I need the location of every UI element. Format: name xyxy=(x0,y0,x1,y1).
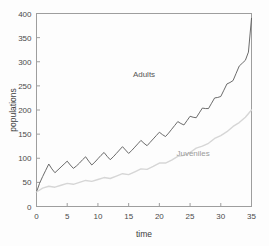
population-line-chart: 050100150200250300350400 05101520253035 … xyxy=(0,0,269,246)
y-tick-label: 100 xyxy=(18,154,32,163)
x-axis-tick-marks xyxy=(37,203,252,207)
y-tick-label: 50 xyxy=(23,178,32,187)
annotation-adults: Adults xyxy=(133,70,155,79)
x-tick-label: 10 xyxy=(93,212,102,221)
plot-frame xyxy=(37,14,252,207)
x-tick-label: 15 xyxy=(124,212,133,221)
y-axis-title: populations xyxy=(8,88,18,131)
figure-canvas: 050100150200250300350400 05101520253035 … xyxy=(0,0,269,246)
x-tick-label: 30 xyxy=(216,212,225,221)
series-line-adults xyxy=(37,18,252,192)
y-tick-label: 150 xyxy=(18,130,32,139)
y-axis-tick-labels: 050100150200250300350400 xyxy=(18,10,32,212)
y-tick-label: 400 xyxy=(18,10,32,19)
x-tick-label: 35 xyxy=(247,212,256,221)
y-tick-label: 300 xyxy=(18,58,32,67)
y-tick-label: 250 xyxy=(18,82,32,91)
x-tick-label: 5 xyxy=(65,212,70,221)
x-tick-label: 20 xyxy=(155,212,164,221)
series-line-juveniles xyxy=(37,110,252,192)
y-tick-label: 200 xyxy=(18,106,32,115)
y-tick-label: 350 xyxy=(18,34,32,43)
x-tick-label: 0 xyxy=(34,212,39,221)
x-axis-tick-labels: 05101520253035 xyxy=(34,212,256,221)
x-tick-label: 25 xyxy=(186,212,195,221)
data-series-group xyxy=(37,18,252,192)
annotation-juveniles: Juveniles xyxy=(176,149,209,158)
y-axis-tick-marks xyxy=(37,14,41,207)
x-axis-title: time xyxy=(136,229,152,239)
y-tick-label: 0 xyxy=(27,203,32,212)
